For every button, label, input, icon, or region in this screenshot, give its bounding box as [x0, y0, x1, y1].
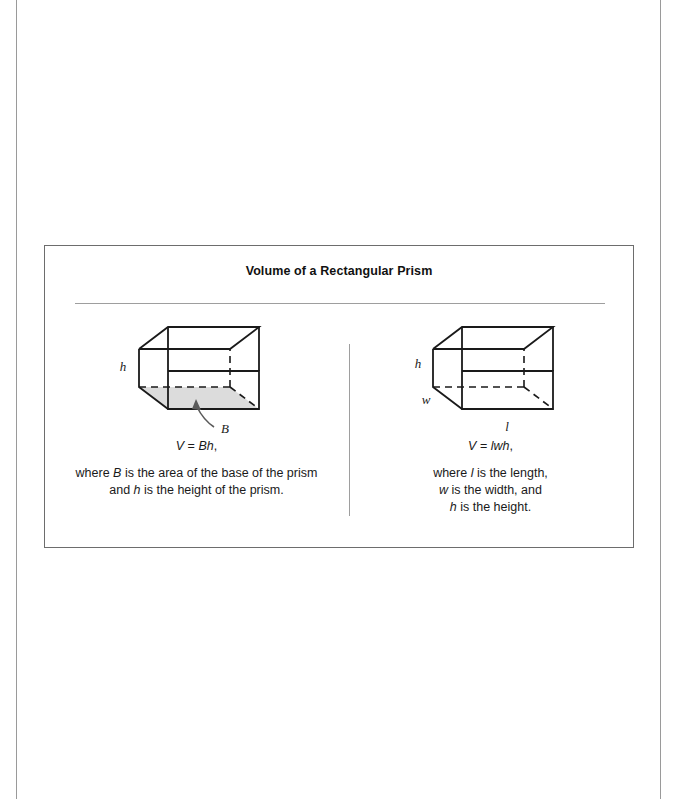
figure-prism-dimensions: h w l	[354, 321, 627, 437]
variable-run: h	[450, 500, 457, 514]
page-margin-rule-right	[660, 0, 661, 799]
rectangular-prism-dimensions-svg: h w l	[390, 321, 590, 437]
formula-rhs: lwh	[491, 439, 510, 453]
formula-columns: h B V = Bh, where B is the area of the b…	[45, 321, 633, 516]
formula-trailing-comma: ,	[214, 439, 217, 453]
column-lwh-form: h w l V = lwh, where l is the length, w …	[348, 321, 633, 516]
description-line: where l is the length,	[354, 465, 627, 482]
page-margin-rule-left	[16, 0, 17, 799]
label-B-base-area: B	[222, 421, 230, 436]
volume-formula-panel: Volume of a Rectangular Prism	[44, 245, 634, 548]
label-h-left-prism: h	[120, 359, 127, 374]
figure-prism-shaded-base: h B	[51, 321, 342, 437]
description-base-area-form: where B is the area of the base of the p…	[51, 465, 342, 499]
description-lwh-form: where l is the length, w is the width, a…	[354, 465, 627, 516]
variable-run: h	[134, 483, 141, 497]
description-line: w is the width, and	[354, 482, 627, 499]
front-face-edges	[462, 327, 553, 409]
rectangular-prism-shaded-base-svg: h B	[96, 321, 296, 437]
formula-lhs: V	[176, 439, 184, 453]
description-line: and h is the height of the prism.	[51, 482, 342, 499]
title-divider	[75, 303, 605, 304]
variable-run: w	[439, 483, 448, 497]
text-run: and	[109, 483, 133, 497]
text-run: where	[76, 466, 114, 480]
formula-v-equals-lwh: V = lwh,	[354, 439, 627, 453]
formula-v-equals-bh: V = Bh,	[51, 439, 342, 453]
label-h-right-prism: h	[415, 356, 422, 371]
column-base-area-form: h B V = Bh, where B is the area of the b…	[45, 321, 348, 516]
top-face-edges	[139, 327, 259, 349]
text-run: where	[433, 466, 471, 480]
formula-trailing-comma: ,	[509, 439, 512, 453]
label-l-length: l	[506, 419, 510, 434]
label-w-width: w	[422, 392, 431, 407]
description-line: where B is the area of the base of the p…	[51, 465, 342, 482]
text-run: is the area of the base of the prism	[121, 466, 317, 480]
text-run: is the height of the prism.	[141, 483, 284, 497]
text-run: is the width, and	[448, 483, 542, 497]
page-title: Volume of a Rectangular Prism	[45, 264, 633, 278]
hidden-edge-back-right-bottom	[524, 387, 553, 409]
text-run: is the length,	[473, 466, 547, 480]
formula-equals: =	[476, 439, 490, 453]
top-face-edges	[433, 327, 553, 349]
formula-equals: =	[184, 439, 198, 453]
base-callout-arrow-line	[197, 407, 214, 427]
left-face-edges	[433, 349, 462, 409]
text-run: is the height.	[457, 500, 531, 514]
formula-rhs: Bh	[198, 439, 213, 453]
description-line: h is the height.	[354, 499, 627, 516]
